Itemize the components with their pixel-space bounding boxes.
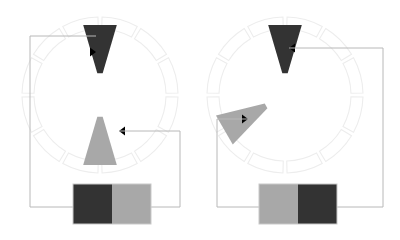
source-box-left[interactable] <box>73 184 151 224</box>
stator-segment <box>33 129 65 161</box>
stator-segment <box>343 58 363 93</box>
source-box-left-right-half <box>112 184 151 224</box>
stator-segment <box>22 97 42 132</box>
stator-segment <box>33 28 65 60</box>
stator-segment <box>319 129 351 161</box>
right-dark-pole <box>268 25 302 73</box>
panel-right <box>207 17 383 224</box>
stator-segment <box>158 58 178 93</box>
left-light-pole <box>83 117 117 165</box>
stator-segment <box>218 28 250 60</box>
right-wire-upper <box>289 48 383 207</box>
source-box-right-left-half <box>259 184 298 224</box>
stator-segment <box>287 153 322 173</box>
stator-segment <box>319 28 351 60</box>
stator-segment <box>248 153 283 173</box>
panel-left <box>22 17 180 224</box>
stator-segment <box>158 97 178 132</box>
stator-segment <box>134 28 166 60</box>
source-box-right[interactable] <box>259 184 337 224</box>
stator-segment <box>207 58 227 93</box>
diagram-canvas <box>0 0 400 240</box>
source-box-left-left-half <box>73 184 112 224</box>
stator-segment <box>343 97 363 132</box>
stator-segment <box>134 129 166 161</box>
left-dark-pole <box>83 25 117 73</box>
motor-commutation-diagram <box>0 0 400 240</box>
stator-segment <box>22 58 42 93</box>
source-box-right-right-half <box>298 184 337 224</box>
